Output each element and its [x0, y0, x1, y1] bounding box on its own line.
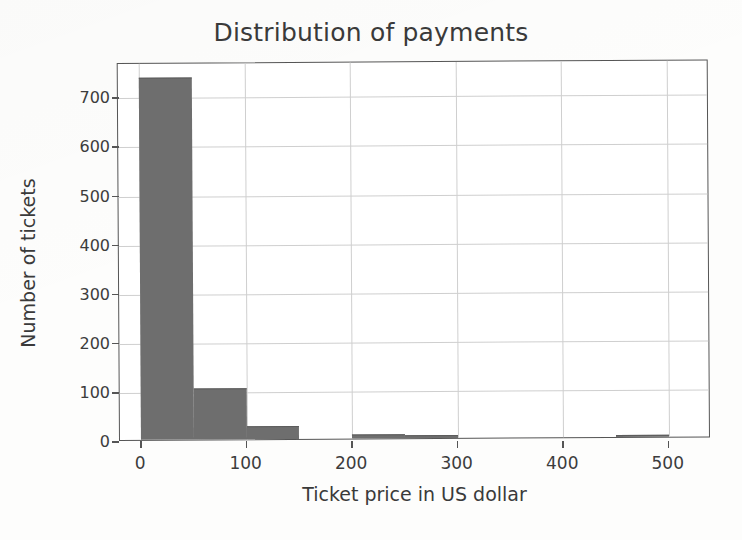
x-axis-tick-labels: 0100200300400500	[0, 0, 742, 540]
figure-page: Distribution of payments 010020030040050…	[0, 0, 742, 540]
y-axis-label: Number of tickets	[17, 143, 39, 383]
x-tick-label: 400	[546, 453, 578, 473]
x-tick-label: 200	[335, 453, 367, 473]
x-tick-label: 100	[229, 453, 261, 473]
x-axis-label: Ticket price in US dollar	[119, 483, 710, 505]
x-tick-label: 300	[440, 453, 472, 473]
x-tick-label: 500	[652, 453, 684, 473]
x-tick-label: 0	[135, 453, 146, 473]
